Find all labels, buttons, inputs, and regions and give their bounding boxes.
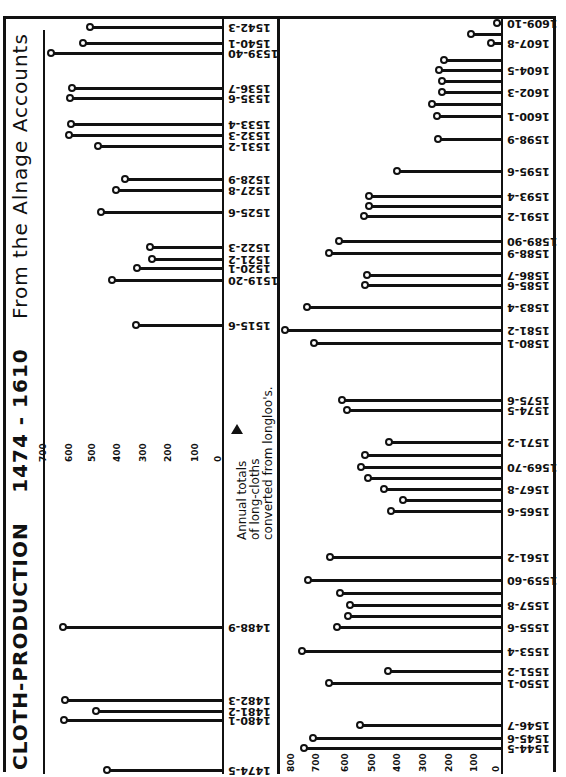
bar-stem [474,33,501,36]
bar-label: 1581-2 [507,325,550,336]
bar-label: 1550-1 [507,678,550,689]
bar-label: 1565-6 [507,506,550,517]
bar-end-marker [438,77,446,85]
axis-tick-label: 200 [163,443,173,462]
bar-label: 1567-8 [507,484,550,495]
bar-end-marker [356,721,364,729]
bar-stem [310,306,501,309]
bar-stem [368,284,501,287]
bar-label: 1555-6 [507,622,550,633]
bar-stem [494,42,501,45]
bar-stem [119,189,222,192]
bar-label: 1609-10 [507,18,558,29]
bar-end-marker [435,66,443,74]
bar-label: 1591-2 [507,211,550,222]
axis-tick-label: 600 [340,753,350,772]
bar-label: 1520-1 [228,263,271,274]
bar-stem [391,670,501,673]
axis-tick-label: 100 [190,443,200,462]
bar-end-marker [467,30,475,38]
bar-label: 1589-90 [507,236,558,247]
bar-stem [445,80,501,83]
title-years: 1474 - 1610 [8,348,32,493]
bar-label: 1598-9 [507,134,550,145]
bar-stem [447,59,501,62]
bar-label: 1474-5 [228,765,271,776]
bar-stem [392,441,501,444]
bar-end-marker [121,175,129,183]
bar-label: 1535-6 [228,93,271,104]
bar-label: 1604-5 [507,65,550,76]
axis-tick-label: 600 [64,443,74,462]
bar-label: 1602-3 [507,87,550,98]
bar-end-marker [309,734,317,742]
axis-tick-label: 500 [367,753,377,772]
bar-stem [364,466,501,469]
bar-stem [317,342,501,345]
axis-tick-label: 800 [286,753,296,772]
bar-stem [139,324,222,327]
bar-end-marker [335,237,343,245]
bar-label: 1525-6 [228,207,271,218]
bar-stem [305,650,501,653]
bar-end-marker [440,56,448,64]
axis-tick-label: 100 [469,753,479,772]
bar-stem [351,615,501,618]
bar-stem [67,719,222,722]
bar-end-marker [304,576,312,584]
bar-stem [406,499,501,502]
bar-end-marker [333,623,341,631]
bar-end-marker [92,707,100,715]
bar-stem [93,26,222,29]
bar-end-marker [357,463,365,471]
bar-stem [68,699,222,702]
bar-label: 1588-9 [507,248,550,259]
bar-stem [332,682,501,685]
bar-label: 1539-40 [228,48,279,59]
axis-tick-label: 700 [38,443,48,462]
bar-end-marker [365,202,373,210]
bar-end-marker [300,744,308,752]
bar-label: 1480-1 [228,715,271,726]
bar-label: 1544-5 [507,743,550,754]
bar-stem [155,258,222,261]
annotation: Annual totals of long-cloths converted f… [236,386,275,540]
bar-stem [288,329,501,332]
bar-stem [350,409,501,412]
bar-end-marker [338,396,346,404]
bar-stem [54,52,222,55]
bar-stem [370,274,501,277]
bar-end-marker [493,19,501,27]
bar-end-marker [344,612,352,620]
bar-end-marker [363,271,371,279]
bar-end-marker [148,255,156,263]
bar-end-marker [146,243,154,251]
bar-end-marker [336,589,344,597]
bar-end-marker [385,438,393,446]
title-main: CLOTH-PRODUCTION [8,522,32,770]
bar-stem [153,246,222,249]
bar-end-marker [360,212,368,220]
panel-divider [277,19,280,774]
bar-label: 1585-6 [507,280,550,291]
bar-end-marker [387,507,395,515]
bar-end-marker [433,112,441,120]
bar-label: 1607-8 [507,38,550,49]
bar-stem [343,592,501,595]
bar-label: 1527-8 [228,185,271,196]
bar-stem [333,556,501,559]
bar-end-marker [310,339,318,347]
bar-label: 1595-6 [507,166,550,177]
bar-end-marker [61,696,69,704]
bar-stem [342,240,501,243]
bar-end-marker [343,406,351,414]
axis-tick-label: 400 [392,753,402,772]
bar-end-marker [393,167,401,175]
bar-stem [368,454,501,457]
bar-end-marker [384,667,392,675]
bar-stem [73,97,222,100]
left-axis-line [43,30,45,774]
left-baseline [222,19,224,774]
bar-label: 1583-4 [507,302,550,313]
axis-tick-label: 0 [491,766,501,772]
